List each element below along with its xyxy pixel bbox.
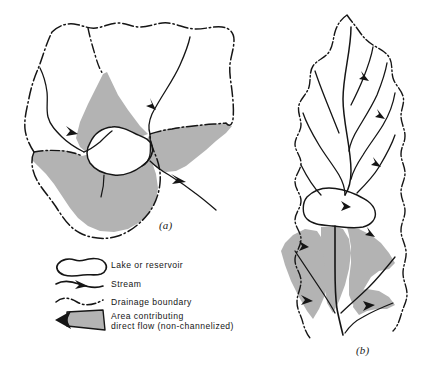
legend-stream-icon xyxy=(56,280,103,289)
legend-lake-blob-icon xyxy=(57,259,107,277)
legend-label-direct-flow-line1: Area contributing xyxy=(111,311,184,322)
stream-arrow-b-1 xyxy=(359,71,369,81)
legend-label-lake: Lake or reservoir xyxy=(111,260,183,271)
legend-label-stream: Stream xyxy=(111,279,141,290)
stream-arrow-north-central xyxy=(146,98,156,110)
legend-label-drainage-boundary: Drainage boundary xyxy=(111,297,192,308)
stream-b-trib-left-2 xyxy=(303,113,345,195)
stream-b-trib-3 xyxy=(351,93,395,179)
figure-root: (a) xyxy=(0,0,431,368)
stream-arrow-outlet xyxy=(171,174,186,184)
stream-arrow-northwest xyxy=(66,126,78,136)
divide-upper-left xyxy=(88,28,103,74)
stream-arrow-b-3 xyxy=(371,157,381,167)
stream-arrow-b-2 xyxy=(375,109,385,119)
legend-boundary-icon xyxy=(56,298,103,305)
legend-shaded-wedge-icon xyxy=(55,310,105,330)
stream-b-trib-1 xyxy=(351,47,373,105)
panel-a-map xyxy=(0,0,245,250)
stream-b-trib-left-1 xyxy=(315,71,339,133)
panel-label-a: (a) xyxy=(159,219,172,231)
panel-label-b: (b) xyxy=(356,344,369,356)
stream-north-central xyxy=(149,37,190,134)
stream-b-trib-2 xyxy=(349,63,387,151)
stream-b-main xyxy=(343,27,351,195)
panel-b-shaded-areas xyxy=(281,226,395,319)
lake-reservoir-panel-b xyxy=(303,188,375,228)
panel-b-map xyxy=(255,5,431,345)
legend-label-direct-flow-line2: direct flow (non-channelized) xyxy=(111,321,234,332)
